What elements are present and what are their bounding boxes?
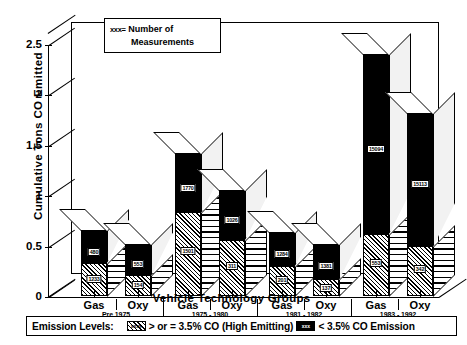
bar-value-label-low-emitting: 1770	[180, 184, 195, 192]
bar-column[interactable]: 1381137	[313, 223, 361, 297]
key-marker: xxx=	[110, 25, 126, 34]
bar-value-label-low-emitting: 15113	[411, 180, 429, 188]
bar-value-label-low-emitting: 480	[88, 248, 100, 256]
frame-back-left	[71, 22, 72, 274]
key-line-1: Number of	[128, 24, 173, 34]
legend-text-low-emitting: < 3.5% CO Emission	[318, 321, 414, 332]
bar-value-label-high-emitting: 1501	[180, 247, 195, 255]
legend-text-high-emitting: > or = 3.5% CO (High Emitting)	[149, 321, 294, 332]
legend-title: Emission Levels:	[32, 321, 114, 332]
bar-side-face-low-emitting	[433, 92, 455, 247]
bar-column[interactable]: 553154	[125, 223, 173, 297]
bar-value-label-high-emitting: 154	[132, 281, 144, 289]
bar-column[interactable]: 15113342	[407, 92, 455, 297]
emission-levels-legend: Emission Levels: xxxx > or = 3.5% CO (Hi…	[26, 316, 457, 336]
bar-value-label-low-emitting: 1381	[318, 262, 333, 270]
bar-value-label-low-emitting: 1284	[274, 250, 289, 258]
bar-value-label-high-emitting: 1233	[86, 275, 101, 283]
bar-value-label-high-emitting: 201	[276, 276, 288, 284]
bar-value-label-high-emitting: 137	[320, 284, 332, 292]
bar-value-label-high-emitting: 342	[414, 265, 426, 273]
bar-value-label-high-emitting: 311	[226, 262, 238, 270]
bar-column[interactable]: 17701501	[175, 132, 223, 297]
frame-front-left	[48, 45, 49, 298]
key-line-2: Measurements	[110, 36, 220, 48]
bar-value-label-low-emitting: 1026	[224, 216, 239, 224]
legend-swatch-low-emitting: xxx	[296, 321, 315, 331]
legend-swatch-high-emitting: xxxx	[127, 321, 146, 331]
bar-value-label-high-emitting: 553	[370, 259, 382, 267]
bar-value-label-low-emitting: 15094	[367, 145, 385, 153]
measurements-key-box: xxx= Number of Measurements	[104, 18, 221, 53]
bar-column[interactable]: 1026311	[219, 169, 267, 297]
bar-value-label-low-emitting: 553	[132, 260, 144, 268]
x-axis-title: Vehicle Technology Groups	[0, 292, 463, 304]
bar-column[interactable]: 15094553	[363, 33, 411, 297]
